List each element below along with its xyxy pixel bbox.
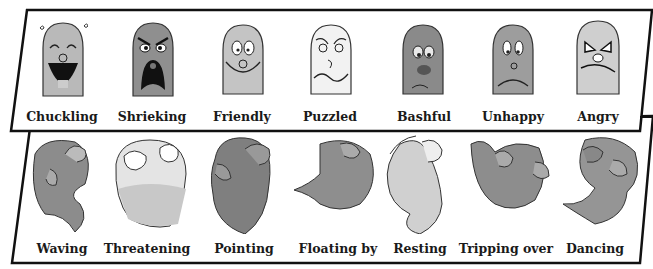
body-label-dancing: Dancing [566,241,624,256]
face-label-puzzled: Puzzled [303,109,357,124]
body-label-tripping-over: Tripping over [459,241,553,256]
face-label-unhappy: Unhappy [482,109,544,124]
face-label-friendly: Friendly [213,109,271,124]
ghost-body-resting [380,134,460,234]
ghost-body-waving [25,134,105,234]
ghost-face-unhappy [488,20,538,100]
face-label-angry: Angry [577,109,618,124]
ghost-face-shrieking [128,18,178,98]
ghost-face-angry [573,16,623,100]
ghost-face-bashful [398,20,448,100]
ghost-body-floating-by [290,134,380,234]
face-label-chuckling: Chuckling [26,109,98,124]
ghost-face-chuckling [38,18,88,98]
body-label-resting: Resting [393,241,447,256]
body-label-floating-by: Floating by [299,241,378,256]
ghost-body-threatening [110,134,190,234]
ghost-body-dancing [555,132,645,232]
face-label-shrieking: Shrieking [118,109,187,124]
body-label-waving: Waving [37,241,88,256]
ghost-body-tripping-over [465,134,555,234]
ghost-face-friendly [218,20,268,100]
ghost-face-puzzled [306,20,356,100]
body-label-pointing: Pointing [214,241,274,256]
ghost-body-pointing [205,134,285,234]
body-label-threatening: Threatening [104,241,190,256]
face-label-bashful: Bashful [397,109,451,124]
